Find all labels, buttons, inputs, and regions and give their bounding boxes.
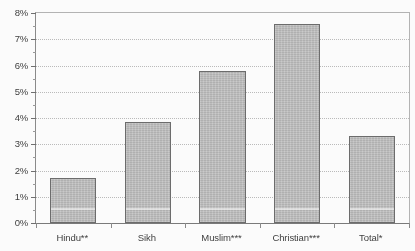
x-axis-tick — [185, 223, 186, 228]
y-axis-tick — [31, 118, 36, 119]
y-axis-minor-tick — [33, 26, 36, 27]
plot-area — [35, 12, 410, 224]
bar-texture — [200, 72, 244, 222]
bar — [274, 24, 320, 224]
bar — [349, 136, 395, 223]
x-axis-label: Sikh — [138, 232, 156, 243]
bar — [125, 122, 171, 223]
y-axis-label: 2% — [0, 164, 28, 175]
x-axis-tick — [334, 223, 335, 228]
y-axis-label: 5% — [0, 85, 28, 96]
x-axis-label: Christian*** — [272, 232, 319, 243]
y-axis-label: 3% — [0, 138, 28, 149]
y-axis-tick — [31, 197, 36, 198]
x-axis-label: Hindu** — [57, 232, 89, 243]
y-axis-minor-tick — [33, 157, 36, 158]
y-axis-minor-tick — [33, 105, 36, 106]
bar — [50, 178, 96, 223]
y-axis-label: 0% — [0, 217, 28, 228]
x-axis-label: Total* — [359, 232, 382, 243]
bar-texture — [126, 123, 170, 222]
bar-texture — [350, 137, 394, 222]
y-axis-label: 4% — [0, 112, 28, 123]
bar — [199, 71, 245, 223]
y-axis-tick — [31, 13, 36, 14]
y-axis-tick — [31, 92, 36, 93]
y-axis-minor-tick — [33, 210, 36, 211]
y-axis-minor-tick — [33, 52, 36, 53]
x-axis-label: Muslim*** — [201, 232, 241, 243]
y-axis-label: 7% — [0, 33, 28, 44]
x-axis-tick — [260, 223, 261, 228]
y-axis-minor-tick — [33, 184, 36, 185]
bar-chart: 0%1%2%3%4%5%6%7%8% Hindu**SikhMuslim***C… — [0, 0, 415, 251]
y-axis-label: 1% — [0, 190, 28, 201]
bar-texture — [51, 179, 95, 222]
x-axis-tick — [36, 223, 37, 228]
y-axis-tick — [31, 39, 36, 40]
x-axis-tick — [111, 223, 112, 228]
y-axis-minor-tick — [33, 131, 36, 132]
bar-texture — [275, 25, 319, 223]
y-axis-label: 8% — [0, 7, 28, 18]
y-axis-minor-tick — [33, 79, 36, 80]
y-axis-tick — [31, 171, 36, 172]
gridline — [36, 66, 409, 67]
y-axis-label: 6% — [0, 59, 28, 70]
gridline — [36, 39, 409, 40]
y-axis-tick — [31, 144, 36, 145]
y-axis-tick — [31, 66, 36, 67]
x-axis-tick — [409, 223, 410, 228]
